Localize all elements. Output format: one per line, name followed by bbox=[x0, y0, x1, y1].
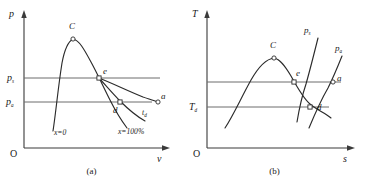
ts-curves bbox=[225, 38, 342, 128]
ts-point-d-marker bbox=[308, 105, 312, 109]
pv-y-axis-label: p bbox=[8, 8, 14, 19]
pv-labels: p v O ps pa C e d a x=0 x=100% td bbox=[5, 8, 166, 164]
ts-point-d-label: d bbox=[317, 102, 322, 112]
ts-point-e-marker bbox=[292, 80, 296, 84]
ts-point-a-label: a bbox=[337, 73, 342, 83]
pv-tick-pa: pa bbox=[5, 96, 14, 108]
ts-labels: T s O Td C e a d ps pa bbox=[189, 8, 347, 164]
pv-curve-x100 bbox=[73, 39, 127, 128]
ts-point-C-label: C bbox=[270, 40, 277, 50]
ts-point-e-label: e bbox=[296, 68, 300, 78]
ts-origin-label: O bbox=[193, 148, 200, 159]
ts-dome-right bbox=[274, 58, 331, 118]
pv-diagram-svg: p v O ps pa C e d a x=0 x=100% td bbox=[0, 0, 183, 182]
ts-caption: (b) bbox=[269, 166, 280, 176]
pv-y-arrowhead bbox=[21, 10, 26, 18]
pv-point-e-marker bbox=[97, 76, 101, 80]
ts-y-arrowhead bbox=[204, 10, 209, 18]
figure-container: p v O ps pa C e d a x=0 x=100% td (a) bbox=[0, 0, 366, 182]
ts-caption-container: (b) bbox=[183, 160, 366, 178]
pv-x-arrowhead bbox=[162, 145, 170, 150]
pv-point-C-label: C bbox=[69, 21, 76, 31]
ts-label-ps: ps bbox=[303, 25, 311, 36]
pv-curve-x0 bbox=[53, 39, 73, 131]
pv-point-a-marker bbox=[156, 100, 160, 104]
pv-label-x0: x=0 bbox=[53, 128, 66, 137]
ts-diagram-svg: T s O Td C e a d ps pa bbox=[183, 0, 366, 182]
pv-caption: (a) bbox=[87, 166, 97, 176]
pv-tick-ps: ps bbox=[6, 72, 14, 84]
pv-point-d-marker bbox=[118, 100, 122, 104]
pv-label-x100: x=100% bbox=[117, 127, 144, 136]
pv-pressure-lines bbox=[24, 78, 160, 102]
pv-origin-label: O bbox=[10, 148, 17, 159]
pv-curves bbox=[53, 39, 158, 131]
pv-isotherm-a bbox=[99, 78, 158, 102]
panel-pv-diagram: p v O ps pa C e d a x=0 x=100% td (a) bbox=[0, 0, 183, 182]
ts-dome-left bbox=[225, 58, 274, 128]
pv-label-td: td bbox=[142, 108, 147, 118]
ts-point-a-marker bbox=[331, 80, 335, 84]
pv-point-d-label: d bbox=[113, 105, 118, 115]
ts-y-axis-label: T bbox=[192, 8, 199, 19]
pv-caption-container: (a) bbox=[0, 160, 183, 178]
pv-point-markers bbox=[71, 37, 160, 104]
ts-x-arrowhead bbox=[347, 145, 355, 150]
ts-label-pa: pa bbox=[334, 43, 343, 54]
ts-isobar-pa bbox=[309, 56, 342, 128]
panel-ts-diagram: T s O Td C e a d ps pa (b) bbox=[183, 0, 366, 182]
pv-point-e-label: e bbox=[103, 66, 107, 76]
ts-tick-td: Td bbox=[189, 101, 198, 113]
ts-point-C-marker bbox=[272, 56, 276, 60]
pv-axes bbox=[21, 10, 170, 151]
pv-point-C-marker bbox=[71, 37, 75, 41]
pv-point-a-label: a bbox=[161, 91, 166, 101]
